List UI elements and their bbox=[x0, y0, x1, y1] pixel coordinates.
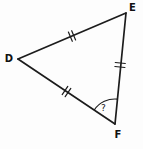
side-DE bbox=[18, 13, 126, 59]
side-EF bbox=[115, 13, 126, 124]
vertex-label-D: D bbox=[5, 53, 13, 64]
side-DF bbox=[18, 59, 115, 124]
vertex-label-F: F bbox=[115, 129, 122, 140]
triangle-figure: D E F ? bbox=[0, 0, 143, 149]
geometry-diagram: D E F ? bbox=[0, 0, 143, 149]
vertex-label-E: E bbox=[129, 2, 136, 13]
angle-label-question: ? bbox=[101, 103, 106, 113]
